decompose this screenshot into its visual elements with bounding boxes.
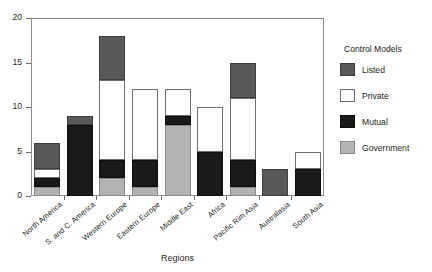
bar-stack: [34, 18, 60, 196]
bar-segment-mutual: [197, 152, 223, 197]
legend-swatch-private: [340, 89, 355, 102]
legend: Control Models ListedPrivateMutualGovern…: [340, 44, 432, 165]
x-tick-mark: [161, 196, 162, 200]
x-tick-label: Africa: [206, 200, 227, 220]
x-axis-title: Regions: [0, 253, 355, 263]
legend-swatch-listed: [340, 63, 355, 76]
bar-segment-mutual: [295, 169, 321, 196]
bar-segment-government: [132, 187, 158, 196]
bar-segment-mutual: [34, 178, 60, 187]
bar-stack: [295, 18, 321, 196]
bar-segment-listed: [99, 36, 125, 81]
legend-item-listed: Listed: [340, 61, 432, 78]
x-tick-label: South Asia: [291, 200, 325, 231]
bar-segment-mutual: [165, 116, 191, 125]
y-tick-label: 10: [0, 101, 22, 111]
bar-segment-listed: [230, 63, 256, 99]
bar-segment-private: [230, 98, 256, 160]
legend-item-government: Government: [340, 139, 432, 156]
bars-layer: [31, 18, 324, 196]
legend-item-mutual: Mutual: [340, 113, 432, 130]
legend-label: Private: [362, 91, 389, 101]
bar-segment-listed: [67, 116, 93, 125]
y-tick-label: 5: [0, 146, 22, 156]
y-tick-label: 15: [0, 57, 22, 67]
x-tick-label: Middle East: [158, 200, 195, 233]
legend-label: Listed: [362, 65, 385, 75]
legend-swatch-mutual: [340, 115, 355, 128]
bar-segment-private: [34, 169, 60, 178]
legend-title: Control Models: [344, 44, 432, 54]
x-tick-mark: [194, 196, 195, 200]
legend-label: Government: [362, 143, 409, 153]
bar-stack: [67, 18, 93, 196]
stacked-bar-chart: 05101520 North AmericaS. and C. AmericaW…: [0, 0, 432, 272]
legend-item-private: Private: [340, 87, 432, 104]
bar-segment-government: [99, 178, 125, 196]
bar-stack: [99, 18, 125, 196]
bar-segment-mutual: [132, 160, 158, 187]
y-tick-label: 0: [0, 190, 22, 200]
bar-stack: [132, 18, 158, 196]
bar-segment-mutual: [67, 125, 93, 196]
bar-segment-private: [165, 89, 191, 116]
x-tick-mark: [64, 196, 65, 200]
bar-segment-mutual: [99, 160, 125, 178]
legend-label: Mutual: [362, 117, 388, 127]
bar-stack: [197, 18, 223, 196]
bar-segment-government: [165, 125, 191, 196]
x-tick-mark: [96, 196, 97, 200]
bar-stack: [262, 18, 288, 196]
x-tick-label: Australasia: [257, 200, 292, 231]
y-tick-label: 20: [0, 12, 22, 22]
y-tick-mark: [26, 196, 31, 197]
bar-segment-mutual: [230, 160, 256, 187]
x-tick-mark: [129, 196, 130, 200]
x-tick-mark: [259, 196, 260, 200]
legend-swatch-government: [340, 141, 355, 154]
bar-stack: [230, 18, 256, 196]
x-tick-mark: [226, 196, 227, 200]
bar-segment-private: [132, 89, 158, 160]
bar-segment-government: [34, 187, 60, 196]
bar-segment-government: [230, 187, 256, 196]
bar-segment-listed: [262, 169, 288, 196]
bar-segment-private: [197, 107, 223, 152]
bar-segment-listed: [34, 143, 60, 170]
x-tick-mark: [291, 196, 292, 200]
legend-items: ListedPrivateMutualGovernment: [340, 61, 432, 156]
bar-segment-private: [99, 80, 125, 160]
bar-segment-private: [295, 152, 321, 170]
bar-stack: [165, 18, 191, 196]
